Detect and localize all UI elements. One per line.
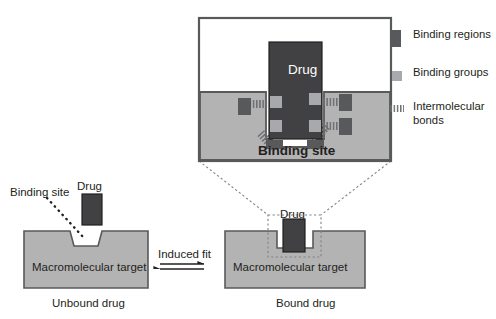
intermolecular-bond-swatch-icon — [390, 105, 404, 112]
unbound-drug-label: Drug — [77, 180, 102, 194]
binding-region-target-right-lower — [339, 118, 352, 135]
bound-drug-block — [283, 219, 305, 252]
binding-region-swatch-icon — [392, 30, 401, 47]
projection-line-right — [321, 161, 391, 215]
unbound-target-body — [24, 231, 148, 288]
unbound-binding-site-label: Binding site — [10, 186, 72, 200]
binding-group-swatch-icon — [392, 71, 402, 81]
inset-binding-site-label: Binding site — [258, 143, 335, 159]
bound-target-label: Macromolecular target — [233, 261, 347, 275]
binding-region-target-left — [238, 98, 251, 115]
bound-caption: Bound drug — [276, 297, 335, 311]
bound-drug-panel — [225, 215, 365, 288]
legend-item-binding-regions-label: Binding regions — [413, 28, 491, 42]
induced-fit-arrows — [160, 264, 204, 269]
inset-panel — [199, 18, 391, 161]
binding-group-right-upper — [309, 93, 321, 105]
binding-group-left-upper — [270, 96, 282, 108]
unbound-drug-block — [82, 194, 102, 225]
unbound-target-label: Macromolecular target — [32, 261, 146, 275]
bond-hatch-right-upper — [322, 98, 339, 106]
binding-group-right-lower — [309, 120, 321, 132]
projection-lines — [199, 161, 391, 215]
unbound-caption: Unbound drug — [52, 297, 125, 311]
projection-line-left — [199, 161, 268, 215]
binding-group-left-lower — [270, 120, 282, 132]
inset-drug-label: Drug — [288, 62, 317, 78]
legend-swatches — [390, 30, 404, 112]
bound-drug-label: Drug — [280, 208, 305, 222]
legend-item-intermolecular-bonds-label: Intermolecular bonds — [413, 100, 496, 128]
figure-canvas: Drug Binding site Binding regions Bindin… — [0, 0, 496, 319]
bond-hatch-left-upper — [251, 100, 268, 108]
legend-item-binding-groups-label: Binding groups — [413, 66, 491, 80]
induced-fit-label: Induced fit — [158, 248, 211, 262]
binding-region-target-right-upper — [339, 94, 352, 111]
